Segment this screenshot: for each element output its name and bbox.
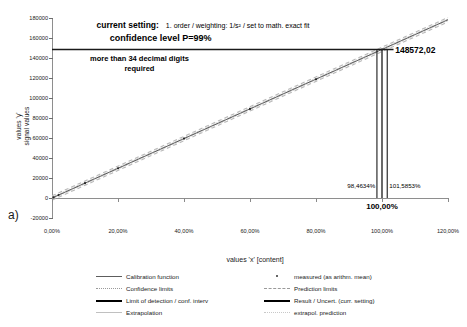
- y-tick-mark: [49, 158, 53, 159]
- value-result-y: 148572,02: [395, 45, 435, 55]
- chart-legend: Calibration functionmeasured (as arithm.…: [96, 270, 446, 318]
- legend-label: Limit of detection / conf. interv: [126, 297, 208, 304]
- y-tick-mark: [49, 178, 53, 179]
- plot-canvas: [52, 18, 448, 218]
- measured-point: [117, 167, 119, 169]
- legend-item: Extrapolation: [96, 306, 264, 318]
- legend-item: measured (as arithm. mean): [264, 270, 446, 282]
- y-tick-label: 60000: [32, 135, 48, 141]
- legend-label: extrapol. prediction: [294, 309, 346, 316]
- legend-label: Confidence limits: [126, 285, 173, 292]
- extrapolation-band-line: [52, 18, 448, 196]
- legend-label: Extrapolation: [126, 309, 162, 316]
- y-tick-mark: [49, 78, 53, 79]
- legend-item: Calibration function: [96, 270, 264, 282]
- x-tick-label: 60,00%: [241, 228, 260, 234]
- annotation-current-setting-title: current setting:: [97, 20, 159, 30]
- x-tick-label: 80,00%: [307, 228, 326, 234]
- y-tick-mark: [49, 218, 53, 219]
- legend-label: measured (as arithm. mean): [294, 273, 372, 280]
- y-axis-title-line2: signal values: [23, 107, 30, 146]
- y-tick-label: 120000: [29, 75, 48, 81]
- legend-swatch-icon: [96, 273, 122, 280]
- legend-swatch-icon: [96, 309, 122, 316]
- legend-item: Confidence limits: [96, 282, 264, 294]
- legend-swatch-icon: [96, 285, 122, 292]
- legend-swatch-icon: [96, 297, 122, 304]
- legend-label: Calibration function: [126, 273, 179, 280]
- chart-figure: a) values 'y' signal values values 'x' […: [0, 0, 467, 327]
- x-tick-mark: [250, 198, 251, 202]
- y-tick-label: 160000: [29, 35, 48, 41]
- y-tick-label: 140000: [29, 55, 48, 61]
- legend-label: Result / Uncert. (curr. setting): [294, 297, 374, 304]
- x-tick-label: 40,00%: [175, 228, 194, 234]
- annotation-decimal-digits-line2: required: [124, 64, 154, 73]
- x-tick-mark: [316, 198, 317, 202]
- y-tick-mark: [49, 58, 53, 59]
- measured-point: [381, 48, 383, 50]
- x-tick-mark: [184, 198, 185, 202]
- measured-point: [249, 108, 251, 110]
- value-upper-limit: 101,5853%: [389, 181, 420, 188]
- y-tick-label: 40000: [32, 155, 48, 161]
- measured-point: [315, 78, 317, 80]
- y-tick-mark: [49, 118, 53, 119]
- y-tick-mark: [49, 138, 53, 139]
- extrapolation-band-line: [52, 22, 448, 200]
- x-tick-label: 100,00%: [371, 228, 393, 234]
- x-tick-mark: [118, 198, 119, 202]
- x-axis-title: values 'x' [content]: [50, 256, 460, 263]
- y-tick-mark: [49, 18, 53, 19]
- x-tick-label: 20,00%: [109, 228, 128, 234]
- measured-point: [84, 182, 86, 184]
- legend-swatch-icon: [264, 297, 290, 304]
- measured-point: [58, 194, 60, 196]
- legend-label: Prediction limits: [294, 285, 337, 292]
- annotation-decimal-digits-line1: more than 34 decimal digits: [90, 54, 189, 63]
- legend-swatch-icon: [264, 273, 290, 280]
- y-tick-label: 180000: [29, 15, 48, 21]
- value-lower-limit: 98,4634%: [347, 181, 375, 188]
- y-tick-label: 0: [45, 195, 48, 201]
- legend-item: Prediction limits: [264, 282, 446, 294]
- panel-label: a): [8, 208, 19, 222]
- legend-swatch-icon: [264, 309, 290, 316]
- x-tick-mark: [448, 198, 449, 202]
- y-tick-label: 100000: [29, 95, 48, 101]
- annotation-confidence-level: confidence level P=99%: [110, 33, 212, 43]
- y-tick-label: 20000: [32, 175, 48, 181]
- plot-area: -200000200004000060000800001000001200001…: [52, 18, 448, 218]
- y-tick-mark: [49, 98, 53, 99]
- legend-swatch-icon: [264, 285, 290, 292]
- y-tick-label: -20000: [31, 215, 48, 221]
- annotation-decimal-digits: more than 34 decimal digits required: [90, 54, 189, 74]
- x-tick-label: 120,00%: [437, 228, 459, 234]
- legend-item: Limit of detection / conf. interv: [96, 294, 264, 306]
- x-tick-label: 0,00%: [44, 228, 60, 234]
- annotation-current-setting-body: 1. order / weighting: 1/s² / set to math…: [166, 22, 310, 29]
- y-tick-label: 80000: [32, 115, 48, 121]
- y-axis-title-line1: values 'y': [15, 112, 22, 139]
- measured-point: [183, 138, 185, 140]
- x-tick-mark: [52, 198, 53, 202]
- legend-item: Result / Uncert. (curr. setting): [264, 294, 446, 306]
- y-tick-mark: [49, 38, 53, 39]
- legend-item: extrapol. prediction: [264, 306, 446, 318]
- value-result-x: 100,00%: [366, 201, 398, 210]
